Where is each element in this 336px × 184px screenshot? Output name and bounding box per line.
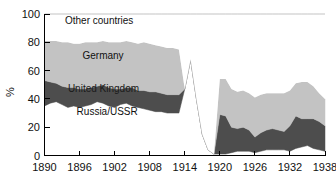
- y-tick-labels-group: 020406080100: [22, 8, 40, 162]
- x-tick-label-1890: 1890: [32, 161, 56, 173]
- y-tick-label-60: 60: [28, 65, 40, 77]
- x-tick-label-1896: 1896: [67, 161, 91, 173]
- series-label-united-kingdom: United Kingdom: [68, 83, 139, 94]
- x-tick-label-1932: 1932: [278, 161, 302, 173]
- x-tick-label-1920: 1920: [208, 161, 232, 173]
- y-axis-title: %: [4, 87, 16, 97]
- x-tick-label-1938: 1938: [313, 161, 336, 173]
- y-tick-label-100: 100: [22, 8, 40, 20]
- chart-canvas: 020406080100 189018961902190819141920192…: [0, 0, 336, 184]
- y-tick-label-0: 0: [34, 150, 40, 162]
- y-tick-label-40: 40: [28, 93, 40, 105]
- series-label-germany: Germany: [83, 50, 124, 61]
- stacked-area-chart: 020406080100 189018961902190819141920192…: [0, 0, 336, 184]
- series-label-russia-ussr: Russia/USSR: [77, 106, 138, 117]
- series-label-other-countries: Other countries: [65, 15, 133, 26]
- x-tick-labels-group: 189018961902190819141920192619321938: [32, 161, 336, 173]
- y-tick-label-80: 80: [28, 36, 40, 48]
- x-tick-label-1926: 1926: [243, 161, 267, 173]
- y-tick-label-20: 20: [28, 121, 40, 133]
- x-tick-label-1908: 1908: [137, 161, 161, 173]
- y-axis-title-group: %: [4, 87, 16, 97]
- x-tick-label-1914: 1914: [173, 161, 197, 173]
- x-tick-label-1902: 1902: [102, 161, 126, 173]
